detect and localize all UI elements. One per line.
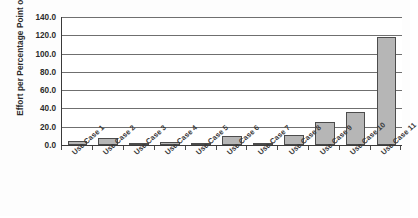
y-axis-tick-label: 20.0	[18, 122, 56, 131]
y-axis-tick-label-group: 0.020.040.060.080.0100.0120.0140.0	[18, 17, 56, 145]
y-axis-tick-label: 60.0	[18, 86, 56, 95]
y-axis-tick-label: 80.0	[18, 67, 56, 76]
bar-slot	[62, 17, 93, 145]
y-axis-tick-label: 40.0	[18, 104, 56, 113]
y-axis-tick-label: 140.0	[18, 13, 56, 22]
y-axis-tick-label: 120.0	[18, 31, 56, 40]
x-axis-tick-label-group: Use Case 1Use Case 2Use Case 3Use Case 4…	[61, 150, 401, 212]
y-axis-tick-label: 100.0	[18, 49, 56, 58]
y-axis-tick-label: 0.0	[18, 141, 56, 150]
bottom-caption	[2, 210, 408, 218]
